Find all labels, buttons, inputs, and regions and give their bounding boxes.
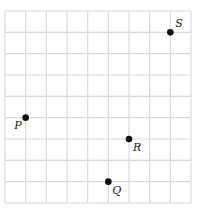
point-q [105,178,112,185]
point-label-p: P [13,119,22,132]
point-r [126,136,133,143]
point-label-r: R [132,141,141,154]
grid-lines [5,11,191,203]
grid-points: SPRQ [13,17,183,196]
point-p [22,114,29,121]
point-s [167,29,174,36]
coordinate-grid-diagram: SPRQ [0,0,198,213]
point-label-s: S [175,17,183,30]
point-label-q: Q [112,184,121,197]
